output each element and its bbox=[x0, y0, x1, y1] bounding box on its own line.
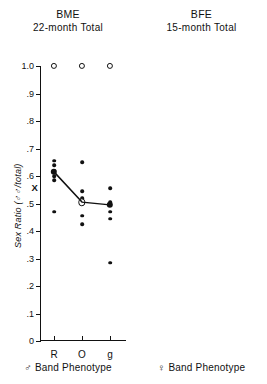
x-tick-label: g bbox=[107, 350, 113, 360]
y-tick-mark bbox=[36, 231, 41, 232]
y-tick-mark bbox=[36, 286, 41, 287]
x-axis-title: ♂ Band Phenotype bbox=[0, 362, 136, 373]
data-point bbox=[80, 160, 84, 164]
panel-bfe-title-line1: BFE bbox=[136, 8, 267, 21]
y-tick-label: .6 bbox=[26, 172, 34, 181]
axis-mean-marker: X bbox=[32, 183, 38, 192]
y-tick-label: .8 bbox=[26, 117, 34, 126]
data-point bbox=[80, 222, 84, 226]
y-tick-mark bbox=[36, 314, 41, 315]
panel-bme-title-line2: 22-month Total bbox=[0, 21, 136, 34]
plot-area-bme: 1.0.9.8.7.6.5.4.3.2.10X ROg bbox=[40, 60, 126, 347]
panel-bme: BME 22-month Total Sex Ratio (♂♂/total) … bbox=[0, 0, 136, 384]
group-mean-point bbox=[51, 169, 57, 175]
panel-bfe-title: BFE 15-month Total bbox=[136, 8, 267, 34]
y-tick-mark bbox=[36, 176, 41, 177]
data-point bbox=[107, 63, 113, 69]
data-point bbox=[51, 63, 57, 69]
panel-bfe: BFE 15-month Total 1.0.9.8.7.6.5.4.3.2.1… bbox=[136, 0, 267, 384]
y-tick-mark bbox=[36, 149, 41, 150]
y-tick-label: .9 bbox=[26, 89, 34, 98]
y-tick-mark bbox=[36, 341, 41, 342]
data-point bbox=[52, 159, 56, 163]
y-tick-label: .1 bbox=[26, 309, 34, 318]
panel-bfe-title-line2: 15-month Total bbox=[136, 21, 267, 34]
y-tick-label: .2 bbox=[26, 282, 34, 291]
y-tick-label: .7 bbox=[26, 144, 34, 153]
y-tick-mark bbox=[36, 259, 41, 260]
x-tick-mark bbox=[82, 336, 83, 341]
y-tick-label: 0 bbox=[29, 337, 34, 346]
data-point bbox=[108, 261, 112, 265]
data-point bbox=[108, 187, 112, 191]
y-tick-mark bbox=[36, 94, 41, 95]
data-point bbox=[108, 210, 112, 214]
data-point bbox=[52, 174, 56, 178]
data-point bbox=[52, 178, 56, 182]
y-tick-mark bbox=[36, 121, 41, 122]
y-tick-mark bbox=[36, 204, 41, 205]
y-axis-title: Sex Ratio (♂♂/total) bbox=[13, 163, 23, 248]
data-point bbox=[108, 217, 112, 221]
y-tick-label: .3 bbox=[26, 254, 34, 263]
panel-bme-title: BME 22-month Total bbox=[0, 8, 136, 34]
y-tick-label: .5 bbox=[26, 199, 34, 208]
x-tick-mark bbox=[110, 336, 111, 341]
y-tick-mark bbox=[36, 66, 41, 67]
x-axis-title: ♀ Band Phenotype bbox=[136, 362, 267, 373]
x-tick-label: R bbox=[50, 350, 57, 360]
group-mean-point bbox=[107, 202, 113, 208]
data-point bbox=[80, 214, 84, 218]
data-point bbox=[79, 63, 85, 69]
panel-bme-title-line1: BME bbox=[0, 8, 136, 21]
data-point bbox=[80, 189, 84, 193]
x-tick-label: O bbox=[78, 350, 86, 360]
figure-sex-ratio-by-band-phenotype: BME 22-month Total Sex Ratio (♂♂/total) … bbox=[0, 0, 267, 384]
data-point bbox=[52, 163, 56, 167]
data-point bbox=[52, 210, 56, 214]
y-tick-label: 1.0 bbox=[21, 62, 34, 71]
group-mean-point bbox=[78, 198, 85, 205]
y-tick-label: .4 bbox=[26, 227, 34, 236]
x-tick-mark bbox=[54, 336, 55, 341]
